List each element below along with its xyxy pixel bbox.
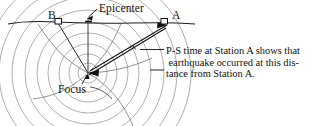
station-a-annotation: P-S time at Station A shows that earthqu… [166, 45, 318, 80]
annotation-line-3: tance from Station A. [166, 68, 318, 80]
earthquake-diagram: Epicenter A B Focus P-S time at Station … [0, 0, 321, 126]
focus-to-station-b-line [58, 23, 88, 73]
station-a-distance-measure [89, 25, 167, 75]
annotation-leader-lines [140, 50, 164, 71]
station-a-marker[interactable] [161, 19, 168, 25]
station-b-label: B [48, 9, 56, 22]
annotation-line-1: P-S time at Station A shows that [166, 45, 318, 57]
annotation-line-2: earthquake occurred at this dis- [166, 57, 318, 69]
distance-arrowhead-focus [88, 70, 99, 77]
epicenter-label: Epicenter [99, 2, 144, 15]
distance-measure-line-upper [90, 25, 167, 71]
focus-label: Focus [58, 83, 86, 96]
epicenter-leader-arrow [87, 9, 97, 21]
seismic-ray-arcs [33, 24, 152, 126]
station-a-label: A [172, 9, 180, 22]
